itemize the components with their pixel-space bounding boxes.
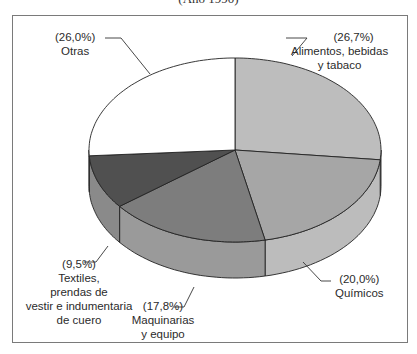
label-alimentos: (26,7%) Alimentos, bebidas y tabaco	[291, 30, 388, 72]
label-maquinarias: (17,8%) Maquinarias y equipo	[130, 299, 196, 341]
label-quimicos-pct: (20,0%)	[335, 272, 384, 286]
label-maquinarias-pct: (17,8%)	[130, 299, 196, 313]
label-textiles-pct: (9,5%)	[20, 257, 138, 271]
label-textiles: (9,5%) Textiles, prendas de vestir e ind…	[20, 257, 138, 327]
label-quimicos-line1: Químicos	[335, 286, 384, 300]
label-alimentos-line1: Alimentos, bebidas	[291, 44, 388, 58]
label-textiles-line3: vestir e indumentaria	[20, 299, 138, 313]
label-textiles-line2: prendas de	[20, 285, 138, 299]
label-maquinarias-line2: y equipo	[130, 327, 196, 341]
label-alimentos-line2: y tabaco	[291, 58, 388, 72]
label-textiles-line1: Textiles,	[20, 271, 138, 285]
leader-line-1	[105, 38, 150, 74]
pie-slice-0	[235, 58, 381, 160]
label-alimentos-pct: (26,7%)	[291, 30, 388, 44]
label-textiles-line4: de cuero	[20, 313, 138, 327]
label-maquinarias-line1: Maquinarias	[130, 313, 196, 327]
label-quimicos: (20,0%) Químicos	[335, 272, 384, 300]
label-otras-line1: Otras	[55, 44, 95, 58]
pie-slice-4	[89, 58, 235, 156]
label-otras: (26,0%) Otras	[55, 30, 95, 58]
label-otras-pct: (26,0%)	[55, 30, 95, 44]
